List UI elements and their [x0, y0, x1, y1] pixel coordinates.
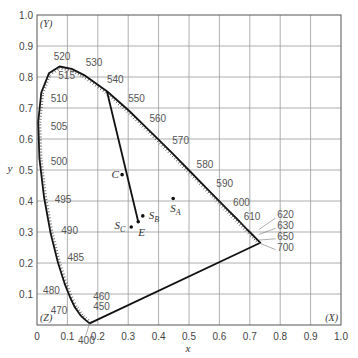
locus-tick [212, 196, 214, 198]
locus-tick [172, 155, 174, 157]
point-label: E [137, 226, 145, 238]
wavelength-label: 480 [43, 285, 60, 296]
locus-tick [83, 315, 85, 317]
locus-tick [254, 238, 256, 240]
locus-tick [180, 163, 182, 165]
wavelength-label: 550 [128, 93, 145, 104]
locus-tick [178, 161, 180, 163]
locus-tick [146, 129, 148, 131]
chart-svg: 00.10.20.30.40.50.60.70.80.91.0 0.10.20.… [0, 0, 358, 358]
locus-tick [245, 230, 247, 232]
wavelength-label: 500 [51, 156, 68, 167]
y-tick-label: 1.0 [19, 10, 33, 21]
wavelength-labels: 5205305405155105055004954904854804704604… [43, 51, 294, 346]
locus-tick [235, 219, 237, 221]
point-s-c [129, 225, 133, 229]
locus-tick [161, 144, 163, 146]
locus-tick [252, 236, 254, 238]
locus-tick [174, 157, 176, 159]
leader-line [259, 243, 276, 250]
x-tick-label: 0.9 [304, 331, 318, 342]
y-tick-label: 0.3 [19, 227, 33, 238]
point-s-b [141, 214, 145, 218]
locus-tick [153, 136, 155, 138]
wavelength-label: 495 [55, 194, 72, 205]
y-tick-label: 0.5 [19, 165, 33, 176]
wavelength-label: 630 [277, 220, 294, 231]
spectral-locus [38, 66, 260, 323]
y-tick-label: 0.6 [19, 134, 33, 145]
point-label: SB [149, 209, 160, 224]
locus-tick [191, 174, 193, 176]
x-tick-label: 0.3 [121, 331, 135, 342]
x-tick-label: 0.4 [152, 331, 166, 342]
locus-tick [233, 218, 235, 220]
y-tick-label: 0.7 [19, 103, 33, 114]
chromaticity-diagram: 00.10.20.30.40.50.60.70.80.91.0 0.10.20.… [0, 0, 358, 358]
locus-tick [193, 176, 195, 178]
x-tick-label: 0.1 [60, 331, 74, 342]
y-axis-ticks: 0.10.20.30.40.50.60.70.80.91.0 [19, 10, 33, 300]
locus-tick [135, 119, 137, 121]
y-tick-label: 0.8 [19, 72, 33, 83]
x-tick-label: 0 [34, 331, 40, 342]
leader-line [259, 239, 276, 240]
locus-tick [176, 159, 178, 161]
wavelength-label: 620 [277, 209, 294, 220]
locus-tick [142, 125, 144, 127]
wavelength-label: 485 [67, 252, 84, 263]
y-axis-label: y [7, 162, 13, 174]
point-s-a [171, 197, 175, 201]
wavelength-label: 530 [86, 57, 103, 68]
y-tick-label: 0.1 [19, 289, 33, 300]
locus-tick [133, 117, 135, 119]
y-tick-label: 0.4 [19, 196, 33, 207]
locus-tick [85, 317, 87, 319]
locus-tick [239, 223, 241, 225]
wavelength-label: 490 [61, 225, 78, 236]
wavelength-label: 520 [54, 51, 71, 62]
locus-tick [159, 142, 161, 144]
reference-points: CSASBSCE [111, 168, 180, 238]
locus-tick [220, 204, 222, 206]
locus-tick [166, 149, 168, 151]
locus-tick [231, 216, 233, 218]
locus-tick [168, 151, 170, 153]
locus-tick [201, 185, 203, 187]
locus-tick [225, 210, 227, 212]
locus-tick [184, 168, 186, 170]
locus-tick [227, 212, 229, 214]
locus-tick [150, 134, 152, 136]
locus-tick [229, 214, 231, 216]
wavelength-label: 610 [244, 211, 261, 222]
x-axis-label: x [185, 342, 191, 354]
locus-tick [203, 187, 205, 189]
locus-tick [243, 228, 245, 230]
locus-tick [237, 221, 239, 223]
corner-label: (Y) [40, 18, 53, 30]
leader-line [259, 218, 276, 229]
locus-tick [241, 225, 243, 227]
wavelength-label: 505 [51, 121, 68, 132]
locus-tick [144, 127, 146, 129]
locus-tick [138, 121, 140, 123]
leader-line [259, 228, 276, 234]
locus-tick [214, 198, 216, 200]
wavelength-label: 450 [93, 301, 110, 312]
locus-tick [182, 166, 184, 168]
wavelength-label: 590 [216, 178, 233, 189]
point-label: SC [115, 219, 127, 234]
point-label: C [111, 168, 119, 180]
x-tick-label: 0.8 [273, 331, 287, 342]
locus-tick [205, 189, 207, 191]
locus-tick [140, 123, 142, 125]
y-tick-label: 0.9 [19, 41, 33, 52]
locus-tick [210, 194, 212, 196]
x-tick-label: 0.7 [243, 331, 257, 342]
wavelength-label: 510 [51, 93, 68, 104]
y-tick-label: 0.2 [19, 258, 33, 269]
x-tick-label: 0.6 [212, 331, 226, 342]
dominant-wavelength-line [107, 91, 138, 222]
locus-tick [148, 132, 150, 134]
wavelength-label: 650 [277, 231, 294, 242]
